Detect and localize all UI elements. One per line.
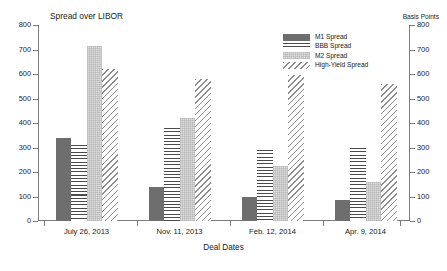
- legend-label-2: M2 Spread: [315, 53, 347, 60]
- y-tick-label-right-800: 800: [417, 21, 429, 28]
- legend-swatch-icon-3: [283, 62, 310, 69]
- y-tick-label-right-500: 500: [417, 95, 429, 102]
- right-axis-title: Basis Points: [403, 13, 439, 20]
- bar-high-yield-spread-3: [381, 84, 397, 221]
- bar-m1-spread-0: [56, 138, 72, 221]
- y-tick-left-700: [33, 50, 38, 51]
- y-tick-label-left-600: 600: [19, 70, 31, 77]
- bar-m2-spread-0: [87, 46, 103, 221]
- bar-m2-spread-3: [366, 182, 382, 221]
- bar-m1-spread-2: [242, 197, 258, 222]
- bar-m1-spread-1: [149, 187, 165, 221]
- x-axis-label-2: Feb. 12, 2014: [249, 228, 296, 236]
- bar-bbb-spread-2: [257, 150, 273, 221]
- x-axis-label-1: Nov. 11, 2013: [156, 228, 202, 236]
- bar-high-yield-spread-2: [288, 75, 304, 221]
- legend-swatch-icon-1: [283, 43, 310, 50]
- legend-item-m2-spread: M2 Spread: [283, 51, 405, 60]
- bar-high-yield-spread-1: [195, 79, 211, 221]
- y-tick-right-100: [410, 197, 415, 198]
- legend-item-high-yield-spread: High-Yield Spread: [283, 61, 405, 70]
- y-tick-left-600: [33, 74, 38, 75]
- y-tick-left-300: [33, 148, 38, 149]
- y-tick-label-left-0: 0: [27, 217, 31, 224]
- y-tick-right-500: [410, 99, 415, 100]
- x-axis-title: Deal Dates: [0, 243, 447, 252]
- y-axis-left-line: [38, 25, 39, 221]
- y-tick-label-right-300: 300: [417, 144, 429, 151]
- y-tick-right-400: [410, 123, 415, 124]
- bar-m2-spread-1: [180, 118, 196, 221]
- x-axis-label-3: Apr. 9, 2014: [345, 228, 386, 236]
- y-tick-label-right-600: 600: [417, 70, 429, 77]
- y-tick-left-200: [33, 172, 38, 173]
- bar-bbb-spread-0: [71, 145, 87, 221]
- x-axis-label-0: July 26, 2013: [64, 228, 109, 236]
- y-tick-label-left-500: 500: [19, 95, 31, 102]
- x-tick-end: [400, 221, 401, 226]
- y-tick-right-600: [410, 74, 415, 75]
- y-tick-label-left-400: 400: [19, 119, 31, 126]
- y-tick-label-left-100: 100: [19, 193, 31, 200]
- chart-legend: M1 SpreadBBB SpreadM2 SpreadHigh-Yield S…: [283, 33, 405, 70]
- legend-label-3: High-Yield Spread: [315, 62, 368, 69]
- legend-item-m1-spread: M1 Spread: [283, 33, 405, 42]
- bar-m1-spread-3: [335, 200, 351, 221]
- y-tick-label-right-0: 0: [417, 217, 421, 224]
- y-tick-left-400: [33, 123, 38, 124]
- y-tick-right-300: [410, 148, 415, 149]
- x-tick-1: [137, 221, 138, 226]
- y-tick-label-left-300: 300: [19, 144, 31, 151]
- x-tick-3: [323, 221, 324, 226]
- spread-over-libor-chart: Spread over LIBOR Basis Points Deal Date…: [0, 0, 447, 271]
- x-tick-2: [230, 221, 231, 226]
- chart-title: Spread over LIBOR: [50, 11, 123, 21]
- legend-swatch-icon-2: [283, 52, 310, 59]
- y-tick-right-800: [410, 25, 415, 26]
- y-tick-label-right-100: 100: [417, 193, 429, 200]
- legend-item-bbb-spread: BBB Spread: [283, 42, 405, 51]
- y-tick-label-left-200: 200: [19, 168, 31, 175]
- y-tick-right-200: [410, 172, 415, 173]
- legend-label-0: M1 Spread: [315, 34, 347, 41]
- y-tick-label-left-700: 700: [19, 46, 31, 53]
- y-tick-label-right-200: 200: [417, 168, 429, 175]
- bar-bbb-spread-1: [164, 128, 180, 221]
- y-tick-left-500: [33, 99, 38, 100]
- x-tick-0: [44, 221, 45, 226]
- y-tick-right-700: [410, 50, 415, 51]
- y-tick-label-right-400: 400: [417, 119, 429, 126]
- y-tick-left-0: [33, 221, 38, 222]
- y-tick-left-800: [33, 25, 38, 26]
- legend-swatch-icon-0: [283, 34, 310, 41]
- y-tick-left-100: [33, 197, 38, 198]
- legend-label-1: BBB Spread: [315, 43, 351, 50]
- bar-bbb-spread-3: [350, 148, 366, 222]
- bar-high-yield-spread-0: [102, 69, 118, 221]
- y-tick-right-0: [410, 221, 415, 222]
- bar-m2-spread-2: [273, 166, 289, 221]
- y-tick-label-right-700: 700: [417, 46, 429, 53]
- y-tick-label-left-800: 800: [19, 21, 31, 28]
